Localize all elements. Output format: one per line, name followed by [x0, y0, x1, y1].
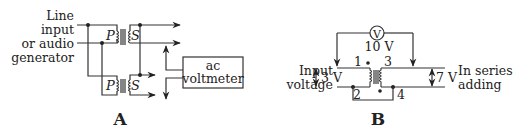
svg-text:Line: Line: [46, 8, 74, 23]
input-source-label: Line input or audio generator: [11, 8, 74, 65]
diagram-b: Input voltage 3 V 1 3 2 4: [286, 26, 513, 129]
svg-text:generator: generator: [11, 50, 74, 65]
output-label: adding: [458, 77, 502, 92]
polarity-dot: [378, 89, 382, 93]
junction-dot: [100, 41, 104, 45]
junction-dot: [86, 23, 90, 27]
transformer-bottom: P S: [105, 78, 140, 93]
svg-text:voltmeter: voltmeter: [181, 71, 243, 86]
transformer-b: [366, 61, 382, 93]
secondary-label: S: [131, 28, 140, 43]
diagram-a: Line input or audio generator P S P: [11, 8, 243, 129]
junction-dot: [138, 23, 142, 27]
caption-b: B: [371, 109, 385, 129]
polarity-dot: [366, 61, 370, 65]
secondary-coil: [129, 80, 131, 91]
secondary-coil: [129, 31, 131, 43]
primary-label: P: [105, 78, 115, 93]
probe-lead-1: [166, 46, 183, 70]
meter-reading: 10 V: [365, 39, 395, 54]
primary-coil: [370, 68, 372, 87]
ac-voltmeter: ac voltmeter: [181, 57, 243, 88]
svg-text:or audio: or audio: [21, 36, 74, 51]
primary-coil: [117, 80, 119, 91]
primary-label: P: [105, 28, 115, 43]
svg-text:input: input: [41, 22, 74, 37]
output-voltage-value: 7 V: [436, 70, 458, 85]
terminal-4: 4: [397, 87, 405, 102]
secondary-coil: [380, 68, 382, 87]
input-voltage-value: 3 V: [321, 70, 343, 85]
junction-dot: [138, 73, 142, 77]
probe-lead-2: [166, 78, 183, 99]
terminal-3: 3: [384, 54, 392, 69]
caption-a: A: [112, 109, 127, 129]
figure: Line input or audio generator P S P: [0, 0, 522, 137]
secondary-label: S: [131, 78, 140, 93]
output-label: In series: [458, 63, 513, 78]
terminal-1: 1: [354, 54, 362, 69]
